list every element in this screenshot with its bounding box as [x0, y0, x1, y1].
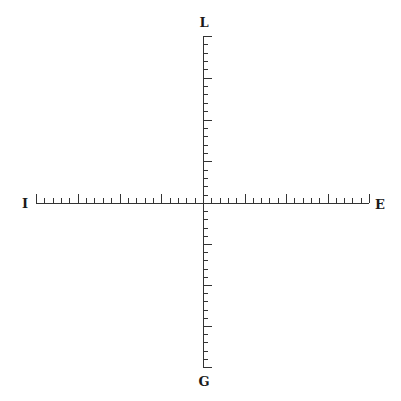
- axes-diagram: L G I E: [0, 0, 401, 401]
- axis-label-right: E: [375, 198, 385, 211]
- vertical-ticks: [203, 37, 212, 368]
- axis-label-left: I: [22, 197, 28, 210]
- axes-canvas: [0, 0, 401, 401]
- axis-label-bottom: G: [198, 375, 209, 388]
- axis-label-top: L: [199, 16, 208, 29]
